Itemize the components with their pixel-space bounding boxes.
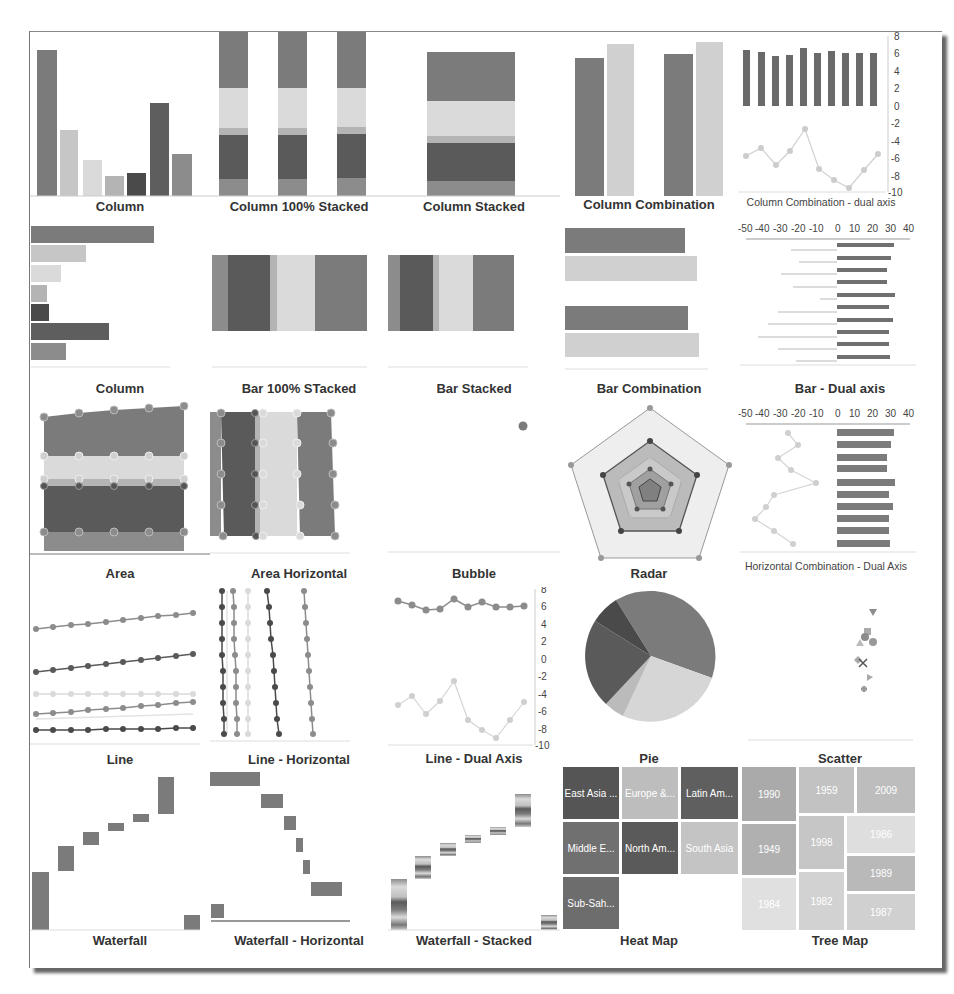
svg-text:-6: -6 [538, 706, 547, 717]
heat-map-cell[interactable]: Middle E... [563, 822, 619, 874]
svg-text:8: 8 [541, 587, 547, 595]
svg-text:30: 30 [885, 408, 897, 419]
chart-area[interactable]: Area [30, 402, 210, 587]
svg-text:4: 4 [894, 66, 900, 77]
chart-bar-stacked[interactable]: Bar Stacked [388, 217, 560, 402]
tree-map-grid: 1990 1959 2009 1949 1998 1986 1989 1984 … [742, 767, 917, 930]
svg-text:20: 20 [867, 223, 879, 234]
line-dual-plot: 8 6 4 2 0 -2 -4 -6 -8 -10 [388, 587, 560, 749]
bar-combination-plot [560, 217, 738, 377]
heat-map-cell[interactable]: South Asia [681, 822, 738, 874]
heat-map-cell[interactable]: North Am... [622, 822, 678, 874]
pie-plot [560, 587, 738, 749]
svg-text:-20: -20 [791, 223, 806, 234]
chart-title: Line - Horizontal [210, 752, 388, 767]
chart-title: Radar [560, 566, 738, 581]
svg-text:-8: -8 [891, 171, 900, 182]
svg-text:0: 0 [835, 408, 841, 419]
tree-map-cell[interactable]: 1990 [742, 767, 796, 821]
svg-text:-50: -50 [738, 223, 753, 234]
heat-map-cell[interactable]: East Asia ... [563, 767, 619, 819]
svg-text:-40: -40 [755, 408, 770, 419]
chart-title: Tree Map [738, 933, 942, 948]
chart-title: Column [30, 199, 210, 214]
heat-map-cell[interactable]: Europe &... [622, 767, 678, 819]
tree-map-cell[interactable]: 1984 [742, 878, 796, 930]
heat-map-cell[interactable]: Latin Am... [681, 767, 738, 819]
svg-text:8: 8 [894, 32, 900, 42]
chart-tree-map[interactable]: 1990 1959 2009 1949 1998 1986 1989 1984 … [738, 772, 942, 968]
svg-text:-30: -30 [773, 223, 788, 234]
chart-title: Area Horizontal [210, 566, 388, 581]
bar-dual-plot: -50 -40 -30 -20 -10 0 10 20 30 40 [738, 217, 942, 377]
svg-text:0: 0 [894, 101, 900, 112]
svg-text:10: 10 [849, 408, 861, 419]
column-combination-plot [560, 32, 738, 197]
chart-title: Pie [560, 751, 738, 766]
chart-title: Waterfall - Stacked [388, 933, 560, 948]
chart-bar[interactable]: Column [30, 217, 210, 402]
chart-area-horizontal[interactable]: Area Horizontal [210, 402, 388, 587]
svg-text:2: 2 [541, 636, 547, 647]
bar-100-stacked-plot [210, 217, 388, 377]
chart-column-combination-dual-axis[interactable]: 8 6 4 2 0 -2 -4 -6 -8 -10 Column Combina… [738, 32, 942, 217]
radar-plot [560, 402, 738, 564]
chart-title: Column Combination - dual axis [726, 196, 916, 208]
bar-stacked-plot [388, 217, 560, 377]
chart-bar-combination[interactable]: Bar Combination [560, 217, 738, 402]
tree-map-cell[interactable]: 1987 [847, 894, 915, 930]
chart-waterfall-horizontal[interactable]: Waterfall - Horizontal [210, 772, 388, 968]
tree-map-cell[interactable]: 1949 [742, 824, 796, 875]
chart-bubble[interactable]: Bubble [388, 402, 560, 587]
chart-heat-map[interactable]: East Asia ... Europe &... Latin Am... Mi… [560, 772, 738, 968]
area-horizontal-plot [210, 402, 388, 564]
bubble-plot [388, 402, 560, 564]
chart-bar-dual-axis[interactable]: -50 -40 -30 -20 -10 0 10 20 30 40 Bar - … [738, 217, 942, 402]
waterfall-plot [30, 772, 210, 934]
svg-text:6: 6 [894, 48, 900, 59]
chart-column-stacked[interactable]: Column Stacked [388, 32, 560, 217]
chart-waterfall[interactable]: Waterfall [30, 772, 210, 968]
chart-column-combination[interactable]: Column Combination [560, 32, 738, 217]
svg-text:-50: -50 [738, 408, 753, 419]
chart-title: Bar Stacked [388, 381, 560, 396]
chart-gallery-frame: Column Column 100% Stacked Column Stacke… [29, 31, 942, 968]
chart-line-dual-axis[interactable]: 8 6 4 2 0 -2 -4 -6 -8 -10 Line - Dual Ax… [388, 587, 560, 772]
tree-map-cell[interactable]: 1959 [799, 767, 854, 813]
chart-radar[interactable]: Radar [560, 402, 738, 587]
chart-horizontal-combination-dual-axis[interactable]: -50 -40 -30 -20 -10 0 10 20 30 40 Horizo… [738, 402, 942, 587]
chart-line-horizontal[interactable]: Line - Horizontal [210, 587, 388, 772]
svg-text:-10: -10 [809, 223, 824, 234]
bar-chart-plot [30, 217, 210, 377]
chart-title: Waterfall [30, 933, 210, 948]
svg-text:-20: -20 [791, 408, 806, 419]
chart-waterfall-stacked[interactable]: Waterfall - Stacked [388, 772, 560, 968]
chart-bar-100-stacked[interactable]: Bar 100% STacked [210, 217, 388, 402]
tree-map-cell[interactable]: 1989 [847, 856, 915, 891]
chart-pie[interactable]: Pie [560, 587, 738, 772]
svg-text:-10: -10 [535, 740, 550, 749]
top-x-axis: -50 -40 -30 -20 -10 0 10 20 30 40 [738, 223, 915, 234]
chart-column[interactable]: Column [30, 32, 210, 217]
right-y-axis: 8 6 4 2 0 -2 -4 -6 -8 -10 [535, 587, 550, 749]
chart-title: Area [30, 566, 210, 581]
heat-map-cell[interactable]: Sub-Sah... [563, 877, 619, 929]
heat-map-grid: East Asia ... Europe &... Latin Am... Mi… [563, 767, 741, 932]
line-chart-plot [30, 587, 210, 749]
chart-scatter[interactable]: Scatter [738, 587, 942, 772]
svg-text:40: 40 [903, 408, 915, 419]
chart-title: Bubble [388, 566, 560, 581]
chart-title: Bar Combination [560, 381, 738, 396]
horizontal-combination-dual-plot: -50 -40 -30 -20 -10 0 10 20 30 40 [738, 402, 942, 562]
chart-line[interactable]: Line [30, 587, 210, 772]
tree-map-cell[interactable]: 1982 [799, 872, 844, 930]
svg-text:-2: -2 [891, 118, 900, 129]
column-combination-dual-plot: 8 6 4 2 0 -2 -4 -6 -8 -10 [738, 32, 942, 202]
tree-map-cell[interactable]: 2009 [857, 767, 915, 813]
tree-map-cell[interactable]: 1998 [799, 816, 844, 869]
svg-text:10: 10 [849, 223, 861, 234]
svg-text:40: 40 [903, 223, 915, 234]
scatter-plot [738, 587, 942, 749]
chart-column-100-stacked[interactable]: Column 100% Stacked [210, 32, 388, 217]
tree-map-cell[interactable]: 1986 [847, 816, 915, 853]
